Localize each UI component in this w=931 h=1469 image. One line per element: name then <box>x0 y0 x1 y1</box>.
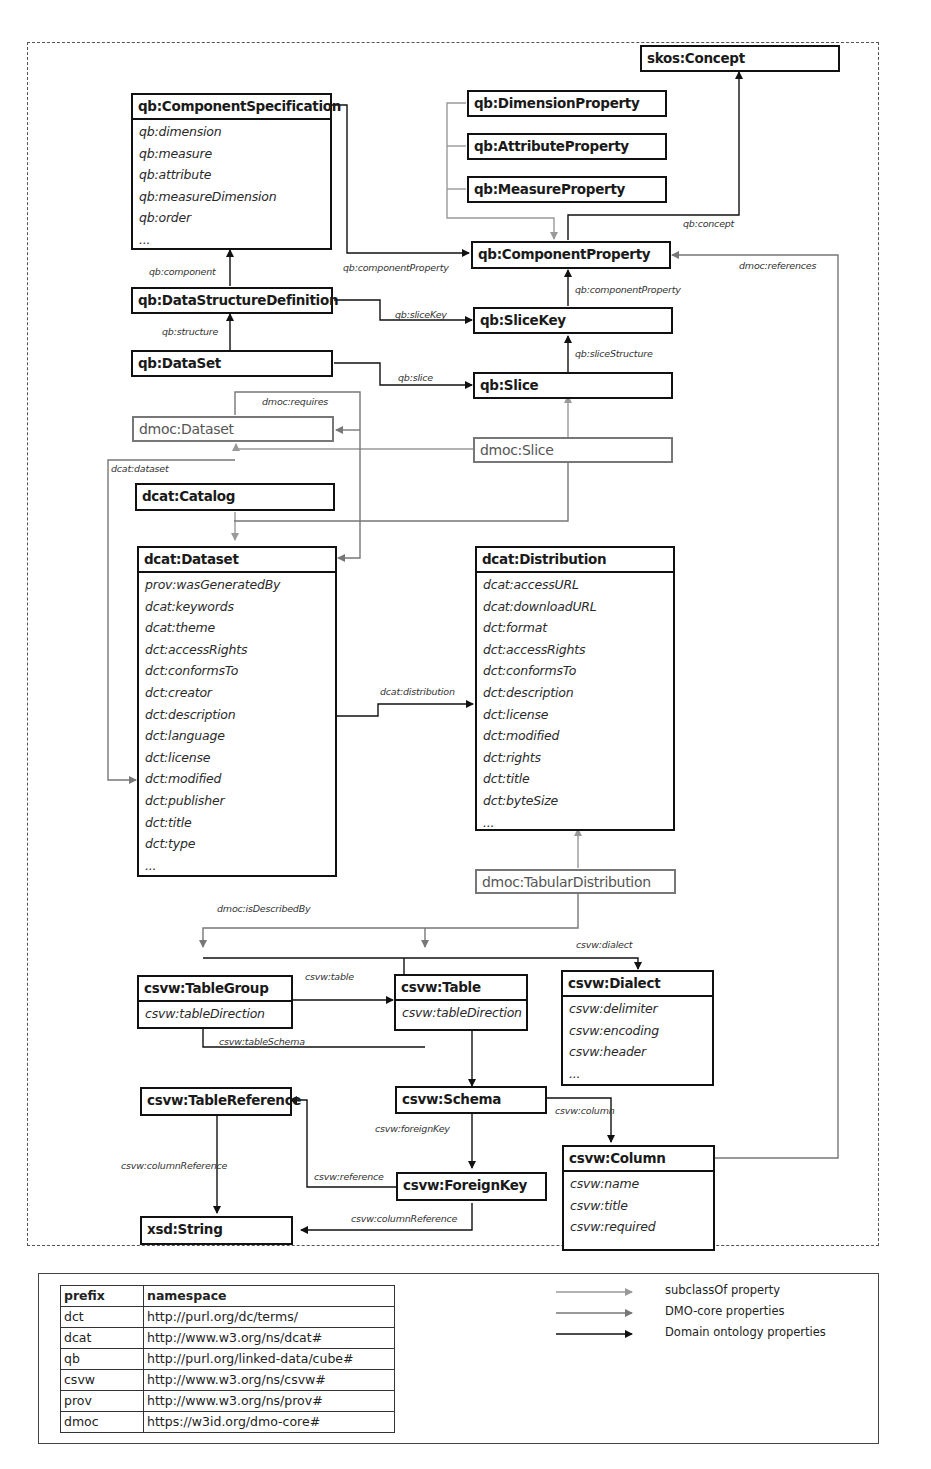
class-csvw-schema[interactable]: csvw:Schema <box>395 1086 547 1114</box>
class-title: dcat:Distribution <box>477 548 673 573</box>
table-row: dct http://purl.org/dc/terms/ <box>61 1307 395 1328</box>
class-qb-component-property[interactable]: qb:ComponentProperty <box>471 241 671 269</box>
class-csvw-table-group[interactable]: csvw:TableGroup csvw:tableDirection <box>137 975 293 1029</box>
class-attribute: dct:title <box>145 812 329 834</box>
class-qb-component-specification[interactable]: qb:ComponentSpecification qb:dimension q… <box>131 93 332 250</box>
class-title: csvw:TableGroup <box>139 977 291 1002</box>
class-csvw-table[interactable]: csvw:Table csvw:tableDirection <box>394 974 528 1031</box>
class-qb-measure-property[interactable]: qb:MeasureProperty <box>467 176 667 203</box>
prefix-cell: qb <box>61 1349 144 1370</box>
class-title: qb:DataSet <box>133 352 331 375</box>
edge-label-csvw-reference: csvw:reference <box>314 1171 384 1182</box>
edge-label-csvw-column-reference: csvw:columnReference <box>121 1160 227 1171</box>
class-attribute: csvw:tableDirection <box>145 1003 285 1025</box>
legend-label: DMO-core properties <box>665 1304 785 1318</box>
class-attribute: dct:modified <box>145 768 329 790</box>
edge-label-qb-structure: qb:structure <box>162 326 218 337</box>
class-skos-concept[interactable]: skos:Concept <box>640 45 840 72</box>
edge-label-csvw-column-reference: csvw:columnReference <box>351 1213 457 1224</box>
legend-label: Domain ontology properties <box>665 1325 826 1339</box>
class-attribute: prov:wasGeneratedBy <box>145 574 329 596</box>
class-csvw-foreign-key[interactable]: csvw:ForeignKey <box>396 1172 547 1201</box>
class-title: dcat:Dataset <box>139 548 335 573</box>
table-row: dmoc https://w3id.org/dmo-core# <box>61 1412 395 1433</box>
edge-label-dcat-dataset: dcat:dataset <box>111 463 169 474</box>
edge-label-dmoc-requires: dmoc:requires <box>262 396 328 407</box>
class-title: qb:MeasureProperty <box>469 178 665 201</box>
class-attribute: ... <box>145 855 329 877</box>
edge-label-qb-component-property: qb:componentProperty <box>343 262 449 273</box>
class-attribute: dcat:downloadURL <box>483 596 667 618</box>
class-csvw-table-reference[interactable]: csvw:TableReference <box>140 1087 292 1116</box>
class-attribute: dcat:keywords <box>145 596 329 618</box>
class-attribute: dct:license <box>483 704 667 726</box>
class-attribute: dct:description <box>145 704 329 726</box>
edge-label-csvw-table: csvw:table <box>305 971 354 982</box>
class-title: csvw:Schema <box>397 1088 545 1111</box>
edge-label-qb-slice: qb:slice <box>398 372 433 383</box>
namespace-cell: https://w3id.org/dmo-core# <box>144 1412 395 1433</box>
legend-label: subclassOf property <box>665 1283 780 1297</box>
class-dcat-catalog[interactable]: dcat:Catalog <box>135 483 335 511</box>
class-dcat-dataset[interactable]: dcat:Dataset prov:wasGeneratedBy dcat:ke… <box>137 546 337 877</box>
table-row: qb http://purl.org/linked-data/cube# <box>61 1349 395 1370</box>
class-qb-slice[interactable]: qb:Slice <box>473 372 673 399</box>
edge-label-qb-component: qb:component <box>149 266 216 277</box>
class-csvw-dialect[interactable]: csvw:Dialect csvw:delimiter csvw:encodin… <box>561 970 714 1086</box>
class-attribute: dct:title <box>483 768 667 790</box>
class-attribute: qb:dimension <box>139 121 324 143</box>
prefix-cell: csvw <box>61 1370 144 1391</box>
prefix-cell: dmoc <box>61 1412 144 1433</box>
edge-label-dcat-distribution: dcat:distribution <box>380 686 455 697</box>
class-title: qb:ComponentProperty <box>473 243 669 266</box>
namespace-cell: http://purl.org/dc/terms/ <box>144 1307 395 1328</box>
class-attribute: ... <box>483 812 667 834</box>
class-dmoc-tabular-distribution[interactable]: dmoc:TabularDistribution <box>475 869 676 894</box>
class-xsd-string[interactable]: xsd:String <box>140 1216 293 1245</box>
class-title: qb:ComponentSpecification <box>133 95 330 120</box>
class-attribute: dct:publisher <box>145 790 329 812</box>
class-attribute: dct:byteSize <box>483 790 667 812</box>
class-title: dmoc:TabularDistribution <box>477 871 674 894</box>
class-attribute: dct:rights <box>483 747 667 769</box>
class-attribute: ... <box>569 1063 706 1085</box>
header-prefix: prefix <box>61 1286 144 1307</box>
class-attribute: csvw:delimiter <box>569 998 706 1020</box>
class-attribute: dct:language <box>145 725 329 747</box>
class-dmoc-slice[interactable]: dmoc:Slice <box>473 437 673 463</box>
table-row: prov http://www.w3.org/ns/prov# <box>61 1391 395 1412</box>
class-title: dcat:Catalog <box>137 485 333 508</box>
class-qb-data-structure-definition[interactable]: qb:DataStructureDefinition <box>131 287 333 314</box>
class-attribute: csvw:header <box>569 1041 706 1063</box>
edge-label-qb-slice-structure: qb:sliceStructure <box>575 348 653 359</box>
class-title: dmoc:Dataset <box>134 418 332 441</box>
class-qb-dimension-property[interactable]: qb:DimensionProperty <box>467 90 667 117</box>
class-title: dmoc:Slice <box>475 439 671 462</box>
class-qb-dataset[interactable]: qb:DataSet <box>131 350 333 377</box>
class-title: xsd:String <box>142 1218 291 1241</box>
table-header-row: prefix namespace <box>61 1286 395 1307</box>
edge-label-csvw-column: csvw:column <box>555 1105 615 1116</box>
class-title: qb:DataStructureDefinition <box>133 289 331 312</box>
class-dmoc-dataset[interactable]: dmoc:Dataset <box>132 416 334 442</box>
namespace-cell: http://www.w3.org/ns/dcat# <box>144 1328 395 1349</box>
class-attribute: dct:accessRights <box>145 639 329 661</box>
class-qb-slice-key[interactable]: qb:SliceKey <box>473 307 673 334</box>
class-attribute: ... <box>139 229 324 251</box>
class-attribute: dct:type <box>145 833 329 855</box>
class-title: qb:SliceKey <box>475 309 671 332</box>
edge-label-csvw-dialect: csvw:dialect <box>576 939 632 950</box>
class-dcat-distribution[interactable]: dcat:Distribution dcat:accessURL dcat:do… <box>475 546 675 831</box>
class-title: qb:Slice <box>475 374 671 397</box>
namespace-cell: http://www.w3.org/ns/prov# <box>144 1391 395 1412</box>
class-attribute: qb:attribute <box>139 164 324 186</box>
prefix-cell: prov <box>61 1391 144 1412</box>
class-attribute: qb:measure <box>139 143 324 165</box>
class-attribute: csvw:required <box>570 1216 707 1238</box>
class-csvw-column[interactable]: csvw:Column csvw:name csvw:title csvw:re… <box>562 1145 715 1251</box>
class-attribute: qb:order <box>139 207 324 229</box>
class-attribute: dct:conformsTo <box>483 660 667 682</box>
class-attribute: dcat:accessURL <box>483 574 667 596</box>
class-title: csvw:TableReference <box>142 1089 290 1112</box>
class-qb-attribute-property[interactable]: qb:AttributeProperty <box>467 133 667 160</box>
